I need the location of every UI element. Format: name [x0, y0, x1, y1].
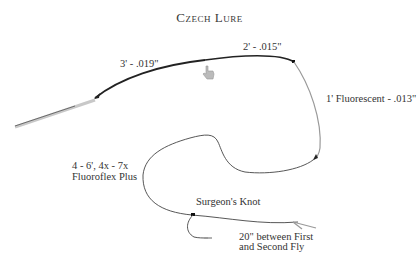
butt-section-label: 3' - .019": [120, 59, 159, 69]
tippet-label-line1: 4 - 6', 4x - 7x: [72, 161, 128, 171]
mid-section-label: 2' - .015": [243, 42, 282, 52]
tippet-label-line2: Fluoroflex Plus: [72, 172, 137, 182]
fluorescent-section-line: [294, 62, 320, 160]
mid-section-line: [205, 56, 294, 62]
dropper-label-line2: and Second Fly: [239, 242, 304, 252]
knot-label: Surgeon's Knot: [196, 197, 260, 207]
indicator-section-label: 1' Fluorescent - .013": [326, 94, 416, 104]
leader-diagram: [0, 0, 419, 262]
hand-cursor-icon: [203, 66, 214, 79]
arrow-icon: [313, 154, 318, 160]
fly-icon: [293, 222, 316, 229]
arrow-icon: [94, 93, 100, 99]
dropper-line: [188, 215, 209, 238]
tippet-line: [143, 135, 313, 223]
fly-line: [15, 100, 95, 127]
